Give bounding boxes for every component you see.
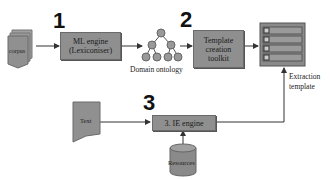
extraction-template-form-icon	[260, 23, 305, 66]
step-1-number: 1	[53, 10, 65, 32]
corpus-label: corpus	[9, 47, 25, 56]
extraction-template-label-line1: Extraction	[289, 72, 320, 81]
resources-label: Resources	[168, 158, 195, 167]
connectors	[0, 0, 333, 180]
ml-engine-label-line2: (Lexiconiser)	[69, 46, 112, 55]
ie-engine-box: 3. IE engine	[152, 115, 216, 131]
domain-ontology-label: Domain ontology	[130, 65, 183, 74]
ml-engine-label-line1: ML engine	[73, 37, 108, 46]
text-label: Text	[80, 116, 91, 125]
ie-engine-label: 3. IE engine	[165, 119, 204, 128]
template-toolkit-label-line3: toolkit	[208, 54, 229, 63]
ml-engine-box: ML engine (Lexiconiser)	[60, 32, 121, 60]
template-toolkit-label-line1: Template	[204, 36, 234, 45]
extraction-template-label-line2: template	[289, 82, 315, 91]
template-toolkit-label-line2: creation	[206, 45, 232, 54]
ontology-tree-icon	[142, 29, 182, 61]
template-toolkit-box: Template creation toolkit	[193, 30, 244, 68]
step-3-number: 3	[143, 92, 155, 114]
step-2-number: 2	[180, 9, 192, 31]
